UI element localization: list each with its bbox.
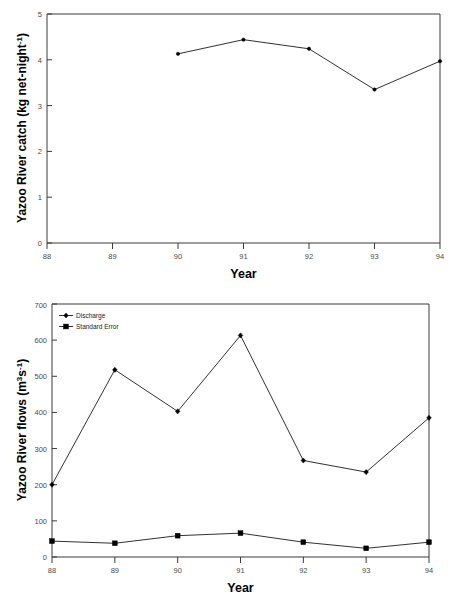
y-tick-label: 600 [34, 336, 47, 345]
data-point-marker [242, 38, 245, 41]
svg-text:Yazoo River flows (m3s-1): Yazoo River flows (m3s-1) [15, 359, 29, 501]
x-tick-label: 93 [370, 252, 378, 261]
x-tick-label: 89 [108, 252, 116, 261]
data-point-marker [364, 546, 369, 551]
data-point-marker [112, 541, 117, 546]
x-tick-label: 90 [173, 566, 181, 575]
legend: Discharge Standard Error [59, 312, 119, 330]
plot-frame-bottom [52, 304, 429, 557]
y-tick-label: 300 [34, 445, 47, 454]
y-axis-title-tail: ) [15, 359, 29, 363]
y-axis-title-text: Yazoo River catch (kg net-night [15, 44, 29, 223]
y-tick-label: 400 [34, 408, 47, 417]
data-point-marker [373, 88, 376, 91]
chart-yazoo-river-flows: 0 100 200 300 400 500 600 700 88 89 [0, 300, 449, 598]
data-point-marker [301, 458, 306, 463]
y-tick-label: 3 [38, 102, 42, 111]
x-axis-tick-labels-bottom: 88 89 90 91 92 93 94 [48, 566, 433, 575]
x-axis-tick-labels-top: 88 89 90 91 92 93 94 [43, 252, 444, 261]
x-axis-title-bottom: Year [227, 581, 254, 595]
y-axis-title-text: Yazoo River flows (m [15, 381, 29, 501]
y-axis-tick-labels-bottom: 0 100 200 300 400 500 600 700 [34, 301, 47, 563]
series-yazoo-river-catch [176, 38, 441, 91]
legend-label: Discharge [76, 312, 106, 320]
y-tick-label: 5 [38, 10, 42, 19]
x-tick-label: 91 [236, 566, 244, 575]
y-tick-label: 500 [34, 372, 47, 381]
data-point-marker [50, 482, 55, 487]
legend-item-standard-error[interactable]: Standard Error [59, 323, 119, 330]
legend-label: Standard Error [76, 323, 119, 330]
data-point-marker [176, 52, 179, 55]
x-tick-label: 92 [305, 252, 313, 261]
y-tick-label: 100 [34, 517, 47, 526]
series-line-discharge [52, 335, 429, 484]
y-tick-label: 200 [34, 481, 47, 490]
y-axis-title-top: Yazoo River catch (kg net-night-1) [15, 33, 29, 223]
legend-item-discharge[interactable]: Discharge [59, 312, 106, 320]
data-point-marker [301, 540, 306, 545]
y-axis-title-tail: ) [15, 33, 29, 37]
data-point-marker [175, 533, 180, 538]
y-tick-label: 4 [38, 56, 42, 65]
y-axis-ticks-top [47, 14, 52, 243]
y-axis-tick-labels-top: 0 1 2 3 4 5 [38, 10, 42, 248]
figure-page: 0 1 2 3 4 5 88 89 90 91 92 [0, 0, 449, 598]
x-tick-label: 93 [362, 566, 370, 575]
square-marker-icon [64, 324, 69, 329]
data-point-marker [438, 59, 441, 62]
x-tick-label: 92 [299, 566, 307, 575]
data-point-marker [113, 367, 118, 372]
x-tick-label: 90 [174, 252, 182, 261]
data-point-marker [238, 531, 243, 536]
x-tick-label: 88 [48, 566, 56, 575]
x-axis-ticks-bottom [52, 557, 429, 563]
y-tick-label: 700 [34, 301, 47, 310]
x-axis-ticks-top [47, 243, 440, 249]
series-yazoo-river-flows [50, 333, 432, 551]
y-axis-title-bottom: Yazoo River flows (m3s-1) [15, 359, 29, 501]
y-tick-label: 0 [43, 553, 47, 562]
diamond-marker-icon [64, 313, 68, 318]
y-axis-ticks-bottom [52, 304, 57, 557]
y-tick-label: 1 [38, 193, 42, 202]
x-tick-label: 91 [239, 252, 247, 261]
chart-yazoo-river-catch: 0 1 2 3 4 5 88 89 90 91 92 [0, 0, 449, 298]
x-tick-label: 94 [436, 252, 444, 261]
x-axis-title-top: Year [230, 267, 257, 281]
x-tick-label: 88 [43, 252, 51, 261]
svg-text:Yazoo River catch (kg net-nigh: Yazoo River catch (kg net-night-1) [15, 33, 29, 223]
x-tick-label: 94 [425, 566, 433, 575]
plot-frame-top [47, 14, 440, 243]
y-tick-label: 2 [38, 147, 42, 156]
data-point-marker [427, 540, 432, 545]
y-tick-label: 0 [38, 239, 42, 248]
data-point-marker [50, 539, 55, 544]
data-point-marker [307, 47, 310, 50]
x-tick-label: 89 [111, 566, 119, 575]
